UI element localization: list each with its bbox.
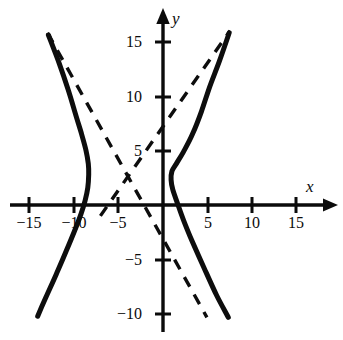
y-tick-label-minus-5: −5	[106, 252, 142, 268]
x-tick-label-minus-5: −5	[99, 215, 137, 231]
y-axis-label: y	[172, 10, 180, 27]
x-axis-label: x	[306, 178, 314, 195]
y-tick-label-10: 10	[112, 89, 142, 105]
y-tick-label-15: 15	[112, 34, 142, 50]
x-tick-label-minus-10: −10	[52, 215, 96, 231]
x-tick-label-15: 15	[280, 215, 312, 231]
asymptotes-group	[48, 31, 231, 318]
asymptote-falling	[48, 33, 207, 318]
x-axis-arrowhead	[323, 199, 338, 212]
y-tick-label-5: 5	[112, 143, 142, 159]
y-axis-arrowhead	[156, 8, 169, 24]
x-tick-label-5: 5	[194, 215, 222, 231]
x-tick-label-minus-15: −15	[7, 215, 51, 231]
hyperbola-curves-group	[38, 33, 230, 318]
hyperbola-left-branch	[38, 35, 89, 316]
hyperbola-graph-figure: 15 10 5 −5 −10 −15 −10 −5 5 10 15 x y	[0, 0, 343, 340]
x-tick-label-10: 10	[236, 215, 268, 231]
hyperbola-right-branch	[171, 33, 229, 318]
plot-canvas	[0, 0, 343, 340]
y-tick-label-minus-10: −10	[100, 306, 142, 322]
asymptote-rising	[100, 31, 230, 216]
